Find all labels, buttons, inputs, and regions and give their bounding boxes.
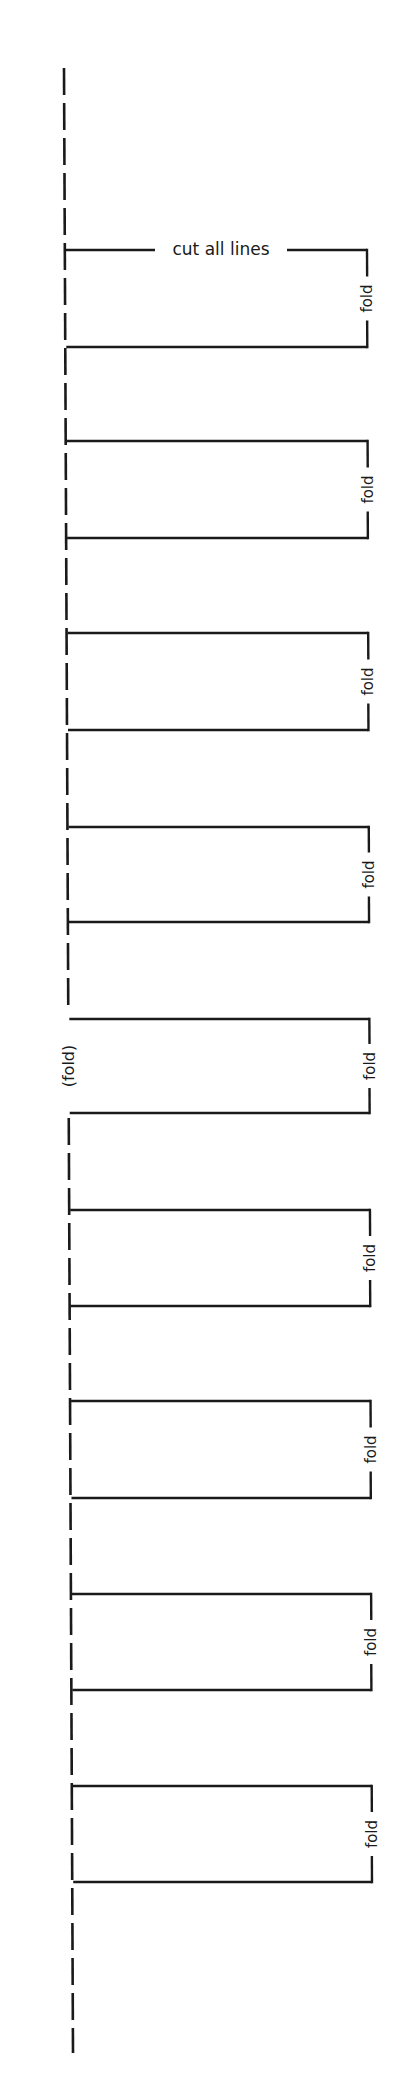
fold-section: fold <box>67 440 377 539</box>
fold-section: fold <box>68 632 378 731</box>
fold-section: fold <box>73 1785 381 1883</box>
fold-label: fold <box>358 284 376 312</box>
fold-section: fold <box>68 826 377 923</box>
fold-label: fold <box>362 1628 380 1656</box>
fold-label: fold <box>361 1244 379 1272</box>
fold-label: fold <box>362 1435 380 1463</box>
fold-section: fold <box>72 1593 380 1691</box>
fold-section: fold <box>66 249 376 348</box>
fold-label: fold <box>363 1820 381 1848</box>
fold-sections: foldfoldfoldfoldfoldfoldfoldfoldfold <box>66 249 381 1883</box>
fold-label: fold <box>359 475 377 503</box>
fold-label: fold <box>359 667 377 695</box>
cut-all-lines-label: cut all lines <box>173 239 270 259</box>
spine-fold-label: (fold) <box>59 1045 78 1088</box>
fold-section: fold <box>69 1018 378 1114</box>
fold-label: fold <box>360 860 378 888</box>
cut-fold-template: foldfoldfoldfoldfoldfoldfoldfoldfold (fo… <box>0 0 396 2089</box>
fold-section: fold <box>70 1209 379 1307</box>
fold-section: fold <box>71 1400 380 1499</box>
fold-label: fold <box>361 1052 379 1080</box>
